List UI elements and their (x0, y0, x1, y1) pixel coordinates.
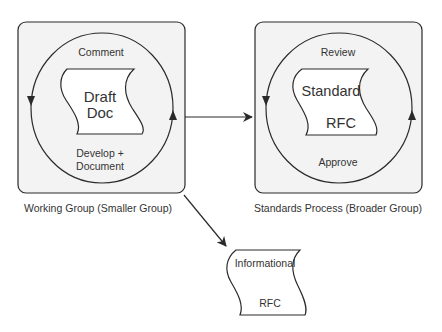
cycle-label-approve: Approve (318, 156, 357, 168)
document-title-line1: Draft (84, 88, 117, 105)
cycle-label-review: Review (321, 46, 356, 58)
cycle-label-develop: Develop + (76, 147, 124, 159)
standards-process-panel: Review Standard RFC Approve (255, 22, 422, 193)
cycle-label-comment: Comment (78, 46, 124, 58)
working-group-caption: Working Group (Smaller Group) (24, 202, 172, 214)
standards-process-caption: Standards Process (Broader Group) (254, 202, 422, 214)
cycle-label-document: Document (76, 160, 124, 172)
document-title-line2: Doc (87, 104, 114, 121)
document-title-line2: RFC (326, 115, 356, 131)
document-title-line1: Standard (302, 83, 361, 99)
working-group-panel: Comment Draft Doc Develop + Document (18, 22, 185, 193)
document-title-line1: Informational (235, 257, 296, 269)
arrow-to-informational (184, 195, 226, 246)
informational-rfc: Informational RFC (227, 250, 306, 315)
rfc-process-diagram: Comment Draft Doc Develop + Document Wor… (0, 0, 442, 332)
document-title-line2: RFC (259, 297, 281, 309)
